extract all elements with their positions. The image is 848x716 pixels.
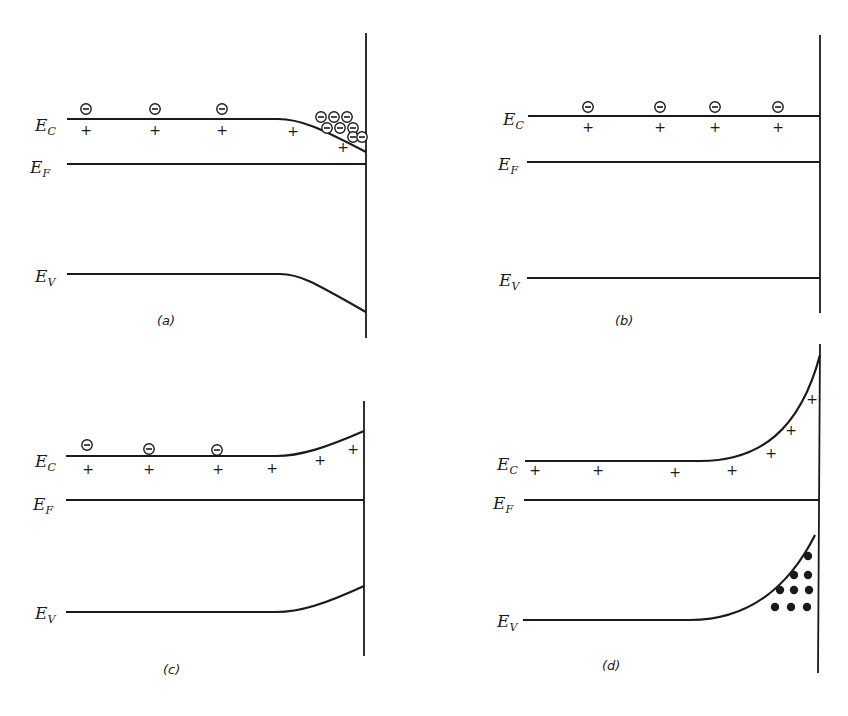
donor-plus-icon: + [80, 122, 92, 138]
donor-plus-icon: + [785, 422, 797, 438]
donor-plus-icon: + [669, 464, 681, 480]
hole-dot-icon [790, 571, 798, 579]
donor-plus-icon: + [529, 462, 541, 478]
donor-plus-icon: + [592, 462, 604, 478]
hole-dot-icon [771, 603, 779, 611]
donor-plus-icon: + [654, 119, 666, 135]
donor-plus-icon: + [143, 461, 155, 477]
electron-icon [710, 102, 720, 112]
electron-icon [144, 444, 154, 454]
ev-label: EV [34, 266, 56, 289]
donor-plus-icon: + [149, 122, 161, 138]
ef-label: EF [492, 493, 513, 516]
ec-label: EC [34, 451, 56, 474]
electrons [82, 440, 222, 455]
ef-label: EF [29, 157, 50, 180]
donor-ions: ++++ [582, 119, 784, 135]
donor-plus-icon: + [726, 462, 738, 478]
electron-icon [329, 112, 339, 122]
ec-label: EC [496, 454, 518, 477]
panel-a: EC EF EV +++++ (a) [29, 33, 367, 338]
electron-icon [316, 112, 326, 122]
ev-label: EV [496, 611, 518, 634]
donor-plus-icon: + [582, 119, 594, 135]
donor-plus-icon: + [314, 452, 326, 468]
electron-icon [655, 102, 665, 112]
donor-plus-icon: + [287, 123, 299, 139]
hole-dot-icon [787, 603, 795, 611]
donor-plus-icon: + [337, 139, 349, 155]
donor-plus-icon: + [347, 441, 359, 457]
electron-icon [217, 104, 227, 114]
ev-label: EV [498, 270, 520, 293]
electron-icon [81, 104, 91, 114]
panel-c: EC EF EV ++++++ (c) [32, 401, 364, 677]
ef-label: EF [32, 494, 53, 517]
electron-icon [322, 123, 332, 133]
holes [771, 552, 813, 611]
donor-plus-icon: + [82, 461, 94, 477]
electron-icon [335, 123, 345, 133]
caption-c: (c) [163, 662, 180, 677]
electron-icon [342, 112, 352, 122]
donor-plus-icon: + [806, 391, 818, 407]
electron-icon [82, 440, 92, 450]
donor-plus-icon: + [212, 461, 224, 477]
surface-line [818, 344, 820, 673]
ec-label: EC [502, 109, 524, 132]
donor-ions: +++++ [80, 122, 349, 155]
electrons [583, 102, 783, 112]
electron-icon [583, 102, 593, 112]
panel-b: EC EF EV ++++ (b) [497, 35, 820, 328]
electron-icon [150, 104, 160, 114]
electron-icon [212, 445, 222, 455]
donor-plus-icon: + [216, 122, 228, 138]
donor-plus-icon: + [266, 460, 278, 476]
band-diagram-figure: EC EF EV +++++ (a) EC EF EV ++++ (b) [0, 0, 848, 716]
ec-label: EC [34, 115, 56, 138]
caption-d: (d) [602, 658, 620, 673]
ev-label: EV [34, 603, 56, 626]
hole-dot-icon [776, 586, 784, 594]
caption-b: (b) [615, 313, 633, 328]
hole-dot-icon [804, 552, 812, 560]
hole-dot-icon [803, 603, 811, 611]
donor-plus-icon: + [772, 119, 784, 135]
caption-a: (a) [157, 313, 175, 328]
panel-d: EC EF EV +++++++ (d) [492, 344, 820, 673]
donor-plus-icon: + [709, 119, 721, 135]
hole-dot-icon [790, 586, 798, 594]
electron-icon [773, 102, 783, 112]
valence-band-edge [66, 586, 364, 612]
donor-plus-icon: + [765, 445, 777, 461]
valence-band-edge [67, 274, 366, 312]
hole-dot-icon [805, 586, 813, 594]
hole-dot-icon [804, 571, 812, 579]
electron-icon [357, 132, 367, 142]
ef-label: EF [497, 154, 518, 177]
